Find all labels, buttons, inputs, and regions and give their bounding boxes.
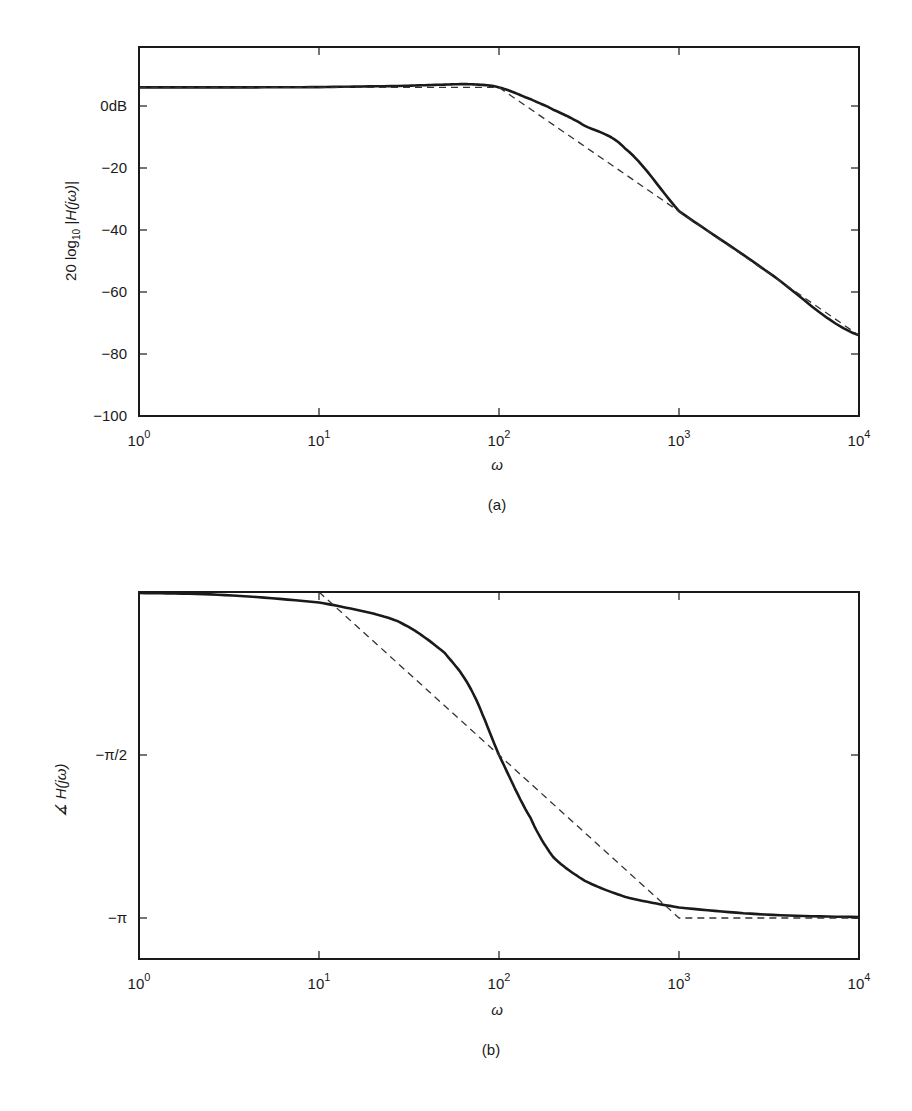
- x-tick-label: 102: [488, 971, 511, 992]
- y-tick-label: −π/2: [95, 746, 127, 763]
- magnitude-x-axis-label: ω: [491, 456, 503, 473]
- x-tick-label: 100: [128, 428, 151, 449]
- magnitude-y-axis-label: 20 log10 |H(jω)|: [62, 181, 82, 281]
- magnitude-panel: 100101102103104 0dB−20−40−60−80−100 ω 20…: [62, 47, 870, 513]
- bode-figure: 100101102103104 0dB−20−40−60−80−100 ω 20…: [0, 0, 912, 1111]
- magnitude-exact-curve: [139, 84, 859, 335]
- x-tick-label: 103: [668, 428, 691, 449]
- y-tick-label: 0dB: [100, 97, 127, 114]
- phase-panel-caption: (b): [482, 1041, 500, 1058]
- x-tick-label: 101: [308, 971, 331, 992]
- x-tick-label: 104: [848, 971, 871, 992]
- phase-panel: 100101102103104 −π/2−π ω ∡ H(jω) (b): [52, 592, 870, 1058]
- magnitude-plot-frame: [139, 47, 859, 416]
- phase-asymptote-line: [139, 592, 859, 918]
- y-tick-label: −20: [102, 159, 127, 176]
- magnitude-x-ticks: 100101102103104: [128, 47, 871, 449]
- phase-y-axis-label: ∡ H(jω): [52, 763, 69, 816]
- phase-curves: [139, 592, 859, 918]
- phase-x-axis-label: ω: [491, 1001, 503, 1018]
- phase-x-ticks: 100101102103104: [128, 592, 871, 992]
- x-tick-label: 102: [488, 428, 511, 449]
- magnitude-panel-caption: (a): [488, 496, 506, 513]
- x-tick-label: 101: [308, 428, 331, 449]
- magnitude-curves: [139, 84, 859, 335]
- x-tick-label: 100: [128, 971, 151, 992]
- x-tick-label: 104: [848, 428, 871, 449]
- y-tick-label: −60: [102, 283, 127, 300]
- magnitude-asymptote-line: [139, 87, 859, 335]
- x-tick-label: 103: [668, 971, 691, 992]
- y-tick-label: −100: [93, 407, 127, 424]
- y-tick-label: −80: [102, 345, 127, 362]
- phase-y-ticks: −π/2−π: [95, 746, 859, 926]
- magnitude-y-ticks: 0dB−20−40−60−80−100: [93, 97, 859, 424]
- phase-plot-frame: [139, 592, 859, 959]
- y-tick-label: −40: [102, 221, 127, 238]
- y-tick-label: −π: [108, 909, 127, 926]
